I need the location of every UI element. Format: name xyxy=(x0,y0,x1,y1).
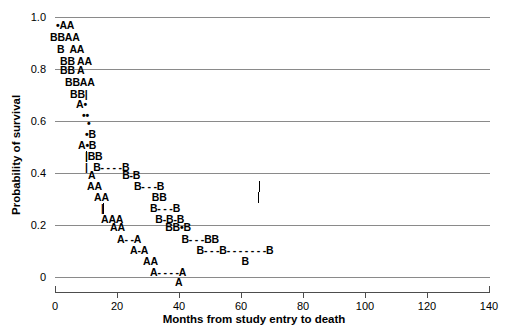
ytick-label-0.2: 0.2 xyxy=(12,219,46,231)
glyph-row-20: AA BB•B xyxy=(110,222,191,232)
ytick-label-0.8: 0.8 xyxy=(12,63,46,75)
x-axis-line xyxy=(55,292,490,293)
glyph-row-13: |BB xyxy=(85,151,103,161)
x-axis-cap-left xyxy=(55,286,56,293)
xtick-label-60: 60 xyxy=(224,300,258,312)
xtick-label-140: 140 xyxy=(472,300,506,312)
glyph-row-11: •B xyxy=(85,129,96,139)
xtick-label-100: 100 xyxy=(348,300,382,312)
glyph-row-6: BBAA xyxy=(65,77,95,87)
x-axis-title: Months from study entry to death xyxy=(0,313,508,325)
connector-vertical xyxy=(259,181,260,192)
connector-vertical xyxy=(258,192,259,203)
glyph-row-16: AA B- - -B xyxy=(87,181,164,191)
gridline-1.0 xyxy=(55,17,490,18)
connector-vertical xyxy=(86,151,87,162)
xtick-label-20: 20 xyxy=(100,300,134,312)
glyph-row-3: B AA xyxy=(57,44,84,54)
xtick-mark-60 xyxy=(241,292,242,298)
glyph-row-25: A xyxy=(175,277,182,287)
ytick-label-1.0: 1.0 xyxy=(12,11,46,23)
glyph-row-10: • xyxy=(87,118,90,128)
xtick-mark-20 xyxy=(117,292,118,298)
survival-chart: 1.0 0.8 0.6 0.4 0.2 0 Probability of sur… xyxy=(0,0,508,332)
xtick-mark-80 xyxy=(303,292,304,298)
x-axis-cap-right xyxy=(489,286,490,293)
glyph-row-23: AA B xyxy=(143,256,249,266)
glyph-row-5: BB A xyxy=(60,65,84,75)
glyph-row-21: A- -A B- - -BB xyxy=(117,234,219,244)
y-axis-title: Probability of survival xyxy=(10,95,22,215)
xtick-mark-100 xyxy=(365,292,366,298)
gridline-0.6 xyxy=(55,121,490,122)
connector-vertical xyxy=(103,203,104,214)
glyph-row-17: AA BB xyxy=(94,192,167,202)
xtick-label-120: 120 xyxy=(410,300,444,312)
glyph-row-18: | B- - -B xyxy=(101,203,180,213)
gridline-0.8 xyxy=(55,69,490,70)
xtick-label-80: 80 xyxy=(286,300,320,312)
xtick-label-0: 0 xyxy=(38,300,72,312)
glyph-row-2: BBAA xyxy=(50,32,80,42)
glyph-row-8: A• xyxy=(76,99,87,109)
glyph-row-12: A•B xyxy=(78,140,96,150)
glyph-row-15: A B-B xyxy=(88,170,140,180)
gridline-0.0 xyxy=(55,277,490,278)
glyph-row-22: A-A B- - -B- - - - - - -B xyxy=(130,245,273,255)
xtick-mark-120 xyxy=(427,292,428,298)
glyph-row-1: •AA xyxy=(56,20,74,30)
xtick-mark-40 xyxy=(179,292,180,298)
plot-area: 1.0 0.8 0.6 0.4 0.2 0 Probability of sur… xyxy=(0,0,508,332)
ytick-label-0: 0 xyxy=(12,271,46,283)
xtick-label-40: 40 xyxy=(162,300,196,312)
